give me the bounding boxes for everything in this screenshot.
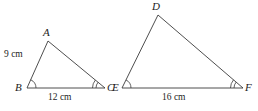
side-length-label: 12 cm — [48, 93, 71, 103]
angle-mark-c — [96, 82, 98, 88]
vertex-label-d: D — [152, 1, 160, 12]
diagram-canvas: ABC9 cm12 cmDEF16 cm — [0, 0, 258, 111]
triangle-def — [122, 15, 243, 88]
angle-mark-f — [231, 80, 234, 88]
vertex-label-f: F — [245, 82, 252, 93]
side-length-label: 16 cm — [162, 93, 185, 103]
angle-mark-e — [126, 80, 131, 88]
vertex-label-a: A — [43, 27, 50, 38]
vertex-label-b: B — [15, 82, 22, 93]
side-length-label: 9 cm — [4, 50, 23, 60]
triangle-abc — [27, 41, 105, 88]
angle-mark-f — [234, 82, 236, 88]
triangle-def-outline — [122, 15, 243, 88]
vertex-label-e: E — [112, 82, 119, 93]
triangle-abc-outline — [27, 41, 105, 88]
triangles-svg — [0, 0, 258, 111]
angle-mark-b — [31, 80, 36, 88]
angle-mark-c — [93, 80, 96, 88]
